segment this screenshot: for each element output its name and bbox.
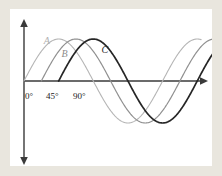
x-tick-label-0deg: 0° bbox=[25, 92, 33, 101]
plot-canvas bbox=[10, 9, 212, 166]
curve-label-a: A bbox=[44, 36, 50, 46]
x-tick-label-45deg: 45° bbox=[46, 92, 59, 101]
x-axis-arrow-icon bbox=[200, 77, 208, 85]
y-axis-arrow-up-icon bbox=[20, 19, 28, 27]
curve-label-b: B bbox=[62, 49, 68, 59]
sine-wave-figure: 0° 45° 90° A B C bbox=[0, 0, 222, 176]
x-tick-label-90deg: 90° bbox=[73, 92, 86, 101]
curve-label-c: C bbox=[102, 45, 109, 55]
y-axis-arrow-down-icon bbox=[20, 157, 28, 165]
plot-area: 0° 45° 90° A B C bbox=[10, 9, 212, 166]
